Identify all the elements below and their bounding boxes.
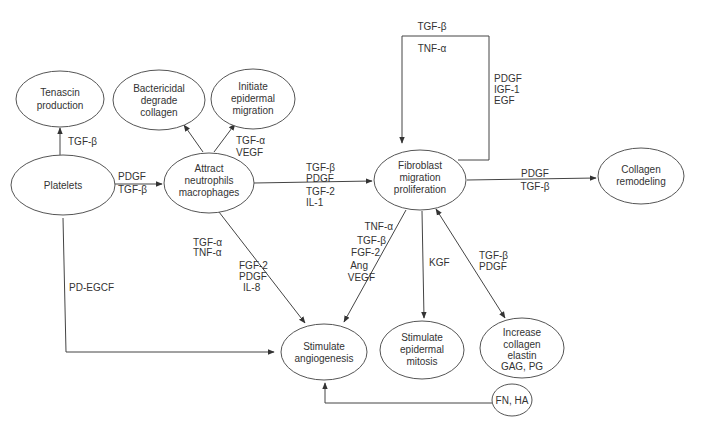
edge-label: TGF-α bbox=[236, 135, 265, 146]
node-label: mitosis bbox=[406, 356, 437, 367]
edge-label: IL-8 bbox=[243, 282, 261, 293]
edge-label: TGF-β bbox=[357, 235, 386, 246]
edge-label: TGF-β bbox=[479, 250, 508, 261]
node-label: Initiate bbox=[238, 81, 268, 92]
edge-label: TGF-2 bbox=[306, 186, 335, 197]
node-label: angiogenesis bbox=[295, 353, 354, 364]
node-label: epidermal bbox=[231, 93, 275, 104]
edge-label: IL-1 bbox=[306, 197, 324, 208]
node-label: GAG, PG bbox=[501, 361, 543, 372]
node-label: Stimulate bbox=[303, 341, 345, 352]
node-label: migration bbox=[399, 172, 440, 183]
edge-label: FGF-2 bbox=[351, 247, 380, 258]
node-platelets: Platelets bbox=[11, 155, 115, 215]
edge-label: IGF-1 bbox=[494, 84, 520, 95]
edge-attract-initiate bbox=[214, 124, 235, 152]
node-label: elastin bbox=[508, 350, 537, 361]
node-fn-ha: FN, HA bbox=[492, 384, 532, 416]
node-label: macrophages bbox=[179, 187, 240, 198]
wound-healing-diagram: Tenascin production Platelets Bactericid… bbox=[0, 0, 703, 432]
node-label: Bactericidal bbox=[133, 83, 185, 94]
edge-label: VEGF bbox=[348, 272, 375, 283]
node-label: degrade bbox=[141, 95, 178, 106]
edge-label: TNF-α bbox=[364, 221, 393, 232]
node-fibroblast: Fibroblast migration proliferation bbox=[374, 150, 466, 210]
node-label: migration bbox=[232, 105, 273, 116]
node-label: remodeling bbox=[616, 176, 665, 187]
edge-label: PDGF bbox=[479, 261, 507, 272]
edge-label: PDGF bbox=[521, 168, 549, 179]
node-label: FN, HA bbox=[496, 395, 529, 406]
node-label: Stimulate bbox=[401, 332, 443, 343]
edge-label: PDGF bbox=[118, 171, 146, 182]
edge-fnha-angiogenesis bbox=[325, 383, 492, 403]
node-collagen-remodeling: Collagen remodeling bbox=[598, 148, 684, 204]
node-bactericidal: Bactericidal degrade collagen bbox=[113, 70, 205, 130]
edge-label: TNF-α bbox=[418, 43, 447, 54]
node-label: Platelets bbox=[44, 180, 82, 191]
node-tenascin: Tenascin production bbox=[16, 71, 104, 127]
edge-label: KGF bbox=[429, 257, 450, 268]
edge-attract-bactericidal bbox=[184, 125, 203, 152]
edge-label: TGF-β bbox=[306, 162, 335, 173]
edge-label: FGF-2 bbox=[239, 260, 268, 271]
node-label: collagen bbox=[140, 107, 177, 118]
edge-label: PDGF bbox=[239, 271, 267, 282]
edge-label: Ang bbox=[350, 260, 368, 271]
edge-label: TNF-α bbox=[193, 247, 222, 258]
node-label: Attract bbox=[195, 163, 224, 174]
edge-label: TGF-β bbox=[118, 184, 147, 195]
node-label: production bbox=[37, 100, 84, 111]
edge-fibroblast-loop bbox=[402, 36, 489, 160]
edge-label: PDGF bbox=[494, 73, 522, 84]
edge-fibroblast-mitosis bbox=[422, 211, 424, 318]
edge-label: EGF bbox=[494, 95, 515, 106]
edge-label: TGF-β bbox=[417, 21, 446, 32]
node-label: Increase bbox=[503, 327, 542, 338]
node-label: Collagen bbox=[621, 164, 660, 175]
edge-label: VEGF bbox=[236, 147, 263, 158]
edge-label: PD-EGCF bbox=[69, 282, 114, 293]
node-angiogenesis: Stimulate angiogenesis bbox=[281, 324, 367, 380]
node-label: proliferation bbox=[394, 184, 446, 195]
node-label: Fibroblast bbox=[398, 160, 442, 171]
node-label: collagen bbox=[503, 339, 540, 350]
edge-label: TGF-β bbox=[520, 181, 549, 192]
node-epidermal-mitosis: Stimulate epidermal mitosis bbox=[380, 321, 464, 379]
node-label: neutrophils bbox=[185, 175, 234, 186]
edge-label: TGF-β bbox=[68, 136, 97, 147]
node-attract: Attract neutrophils macrophages bbox=[164, 153, 254, 213]
node-increase-collagen: Increase collagen elastin GAG, PG bbox=[480, 318, 564, 378]
node-initiate: Initiate epidermal migration bbox=[211, 69, 295, 129]
node-label: Tenascin bbox=[40, 87, 79, 98]
edge-label: PDGF bbox=[306, 173, 334, 184]
node-label: epidermal bbox=[400, 344, 444, 355]
